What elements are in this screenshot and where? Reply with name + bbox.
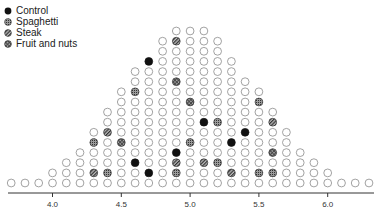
dot-open [172,58,180,66]
dot-spaghetti [214,159,222,167]
dot-open [269,128,277,136]
x-tick-label: 5.0 [185,200,197,209]
dot-open [49,169,57,177]
dot-open [283,128,291,136]
dot-open [117,88,125,96]
dot-open [172,27,180,35]
dot-open [131,179,139,187]
dot-open [186,128,194,136]
dot-open [186,58,194,66]
dot-open [310,169,318,177]
dot-open [200,98,208,106]
dot-open [228,108,236,116]
dot-open [228,78,236,86]
dot-open [131,169,139,177]
dot-steak [172,159,180,167]
dot-open [172,98,180,106]
dot-open [255,149,263,157]
dot-open [186,179,194,187]
dot-steak [269,118,277,126]
dot-open [214,108,222,116]
dot-open [172,68,180,76]
dot-open [269,108,277,116]
dot-open [186,47,194,55]
dot-open [117,149,125,157]
dot-open [296,159,304,167]
dot-open [172,139,180,147]
dot-open [131,68,139,76]
dot-open [269,139,277,147]
dot-open [200,78,208,86]
dot-open [35,179,43,187]
dot-open [269,179,277,187]
dot-open [241,118,249,126]
dot-open [214,179,222,187]
dot-open [241,139,249,147]
dot-open [62,169,70,177]
dot-open [145,159,153,167]
dot-open [296,179,304,187]
dot-open [310,159,318,167]
spaghetti-marker-icon [4,18,12,26]
dot-open [172,128,180,136]
dot-open [159,68,167,76]
dot-open [131,98,139,106]
legend-label-steak: Steak [16,27,42,38]
dot-open [7,179,15,187]
dot-open [145,98,153,106]
dot-open [159,98,167,106]
dot-open [186,118,194,126]
fruit-marker-icon [4,40,12,48]
dot-open [172,108,180,116]
dot-open [283,139,291,147]
dot-open [296,169,304,177]
dot-open [283,149,291,157]
dot-control [200,118,208,126]
legend-item-steak: Steak [4,27,77,38]
x-axis-ticks: 4.04.55.05.56.0 [47,193,334,209]
dot-open [159,88,167,96]
dot-open [104,179,112,187]
dot-open [310,179,318,187]
dot-open [283,159,291,167]
dot-open [117,108,125,116]
dot-open [228,118,236,126]
dot-fruit [269,149,277,157]
dot-open [255,179,263,187]
dot-open [214,98,222,106]
dot-spaghetti [269,169,277,177]
dot-open [145,149,153,157]
dot-open [131,139,139,147]
dot-open [159,128,167,136]
dot-open [241,149,249,157]
dot-open [117,169,125,177]
dot-open [365,179,373,187]
dot-fruit [172,78,180,86]
dot-open [172,179,180,187]
dot-open [145,108,153,116]
dot-open [76,159,84,167]
dot-open [49,179,57,187]
dot-open [228,98,236,106]
dot-open [200,27,208,35]
dot-open [76,179,84,187]
dot-open [104,159,112,167]
dot-control [131,159,139,167]
dot-open [186,169,194,177]
dot-open [241,169,249,177]
dot-open [131,78,139,86]
dot-open [159,47,167,55]
dot-open [241,88,249,96]
dot-steak [104,128,112,136]
dot-open [131,149,139,157]
dot-open [145,68,153,76]
dot-open [159,118,167,126]
dot-open [104,108,112,116]
dot-open [131,128,139,136]
dot-open [62,179,70,187]
dot-open [214,88,222,96]
dot-open [255,159,263,167]
dot-open [186,27,194,35]
dot-open [214,47,222,55]
dot-open [117,159,125,167]
